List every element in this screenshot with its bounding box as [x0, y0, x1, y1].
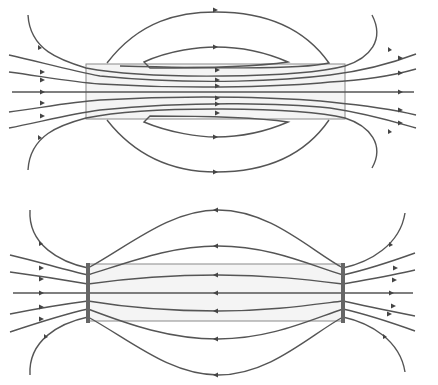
bottom-line-6 [30, 317, 405, 375]
top-outer-loop-lower [107, 120, 329, 172]
top-outer-loop-upper [107, 12, 329, 68]
field-line-diagram [0, 0, 438, 385]
bottom-line-1 [30, 210, 405, 268]
top-panel [9, 8, 416, 175]
bottom-panel [10, 208, 415, 378]
left-end-plate [86, 263, 90, 323]
right-end-plate [341, 263, 345, 323]
